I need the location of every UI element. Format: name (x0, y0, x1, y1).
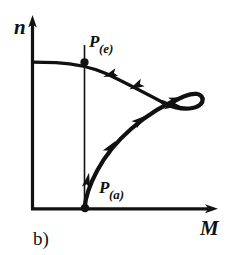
point-marker-pe (80, 58, 88, 66)
figure-background (0, 0, 233, 255)
y-axis-label: n (14, 15, 26, 39)
point-label-pa-sub: (a) (109, 187, 124, 202)
x-axis-label: M (199, 216, 220, 240)
figure-container: n M P (e) P (a) b) (0, 0, 233, 255)
point-marker-pa (81, 204, 90, 213)
point-label-pe-sub: (e) (99, 41, 113, 56)
figure-caption: b) (33, 228, 49, 250)
figure-canvas: n M P (e) P (a) b) (0, 0, 233, 255)
